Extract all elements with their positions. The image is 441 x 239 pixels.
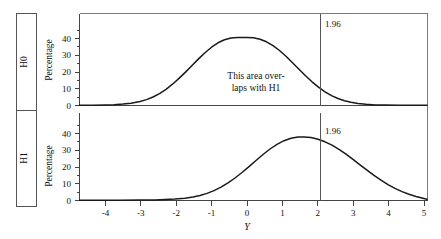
panel-label-h1: H1 (19, 152, 29, 164)
panel-h0-ytick-30: 30 (62, 50, 72, 60)
panel-h1-ylabel: Percentage (44, 145, 54, 187)
xtick-label-3: 3 (351, 208, 356, 218)
panel-h0-y-major-ticks (75, 39, 80, 106)
panel-h0: 0 10 20 30 40 Percentage 1.96 This area … (44, 14, 428, 111)
panel-h0-critical-label: 1.96 (325, 19, 341, 29)
panel-h1-ytick-40: 40 (62, 129, 72, 139)
xtick-label--3: -3 (137, 208, 145, 218)
xtick-label-4: 4 (386, 208, 391, 218)
panel-h0-annotation-line1: This area over- (227, 71, 284, 81)
xtick-label-5: 5 (422, 208, 427, 218)
xtick-label--4: -4 (102, 208, 110, 218)
xtick-label-1: 1 (280, 208, 285, 218)
panel-h1-ytick-10: 10 (62, 179, 72, 189)
panel-h1-curve (80, 137, 428, 200)
panel-h0-ytick-10: 10 (62, 84, 72, 94)
panel-label-h0: H0 (19, 56, 29, 68)
panel-h1: 0 10 20 30 40 Percentage 1.96 (44, 106, 428, 233)
xtick-label-0: 0 (245, 208, 250, 218)
panel-h0-ytick-40: 40 (62, 34, 72, 44)
panel-h0-ylabel: Percentage (44, 39, 54, 81)
panel-h0-annotation-line2: laps with H1 (232, 83, 281, 93)
panel-label-boxes (17, 14, 37, 207)
panel-h1-y-major-ticks (75, 134, 80, 201)
x-axis-label: Y (244, 221, 251, 232)
panel-h1-critical-label: 1.96 (325, 126, 341, 136)
panel-h1-x-ticks (105, 201, 424, 206)
panel-h1-ytick-20: 20 (62, 162, 72, 172)
figure-container: H0 H1 (0, 0, 441, 239)
xtick-label--2: -2 (172, 208, 180, 218)
statistics-figure: H0 H1 (0, 0, 441, 239)
xtick-label--1: -1 (208, 208, 216, 218)
panel-h0-ytick-0: 0 (67, 101, 72, 111)
panel-h1-ytick-0: 0 (67, 196, 72, 206)
xtick-label-2: 2 (316, 208, 321, 218)
panel-h1-ytick-30: 30 (62, 145, 72, 155)
panel-h0-ytick-20: 20 (62, 67, 72, 77)
